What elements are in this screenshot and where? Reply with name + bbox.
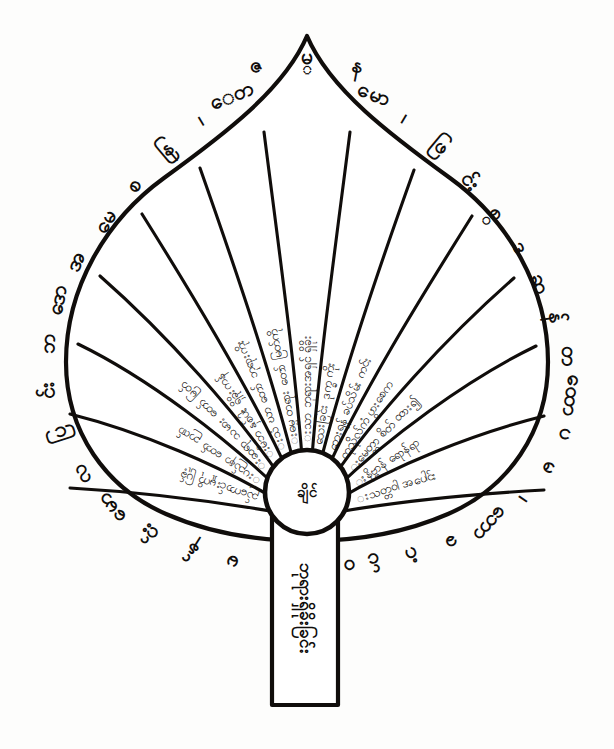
outer-ring-glyph: လ — [66, 460, 96, 488]
outer-ring-glyph: င်း — [134, 518, 164, 549]
outer-ring-glyph: ခ — [440, 530, 464, 556]
figure-root: းသာ ဘုရားအရှင် ရှိခိုး းဓမ္မ တရား တော် မ… — [0, 0, 614, 749]
outer-ring-glyph: နြ — [150, 132, 183, 168]
outer-ring-glyph: ၊ — [514, 493, 536, 509]
outer-ring-glyph: မော — [92, 488, 131, 529]
outer-ring-glyph: တ — [557, 346, 581, 367]
leaf-diagram-canvas: းသာ ဘုရားအရှင် ရှိခိုး းဓမ္မ တရား တော် မ… — [0, 0, 614, 749]
outer-ring-glyph: ဒော — [42, 282, 72, 317]
outer-ring-glyph: ဘ — [35, 334, 60, 355]
outer-ring-glyph: ၊ — [397, 106, 412, 128]
outer-ring-glyph: ဖြ — [423, 129, 456, 165]
outer-ring-glyph: မ — [537, 458, 564, 479]
outer-ring-glyph: ပ — [554, 425, 580, 443]
outer-ring-glyph: မ — [222, 550, 242, 577]
outer-ring-glyph: ဘော — [468, 502, 513, 548]
outer-ring-glyph: ဇ — [248, 52, 264, 78]
outer-ring-glyph: ဂံ — [401, 541, 423, 568]
hub-group: ချိင် — [265, 450, 349, 534]
outer-ring-glyph: ဝ — [341, 554, 359, 580]
central-circle-text: ချိင် — [297, 482, 318, 504]
outer-ring-glyph: န် — [179, 533, 205, 566]
outer-ring-glyph: င်း — [32, 380, 60, 400]
outer-ring-glyph: င် — [365, 548, 385, 576]
outer-ring-glyph: ၊ — [192, 108, 207, 130]
